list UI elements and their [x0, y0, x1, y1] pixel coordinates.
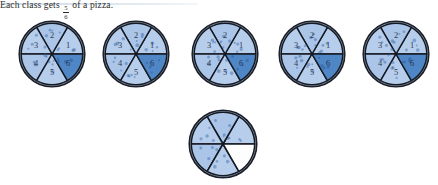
- pepperoni-topping: [223, 133, 226, 136]
- slice-number-label: 6: [410, 59, 414, 68]
- pepperoni-topping: [321, 44, 324, 47]
- pepperoni-topping: [238, 138, 240, 140]
- pepperoni-topping: [403, 31, 406, 34]
- pepperoni-topping: [158, 59, 160, 61]
- pepperoni-topping: [199, 147, 202, 150]
- pepperoni-topping: [236, 51, 239, 54]
- pepperoni-topping: [130, 74, 132, 76]
- pepperoni-topping: [135, 43, 139, 47]
- slice-number-label: 5: [134, 68, 138, 77]
- pizza-3: 123456: [190, 19, 260, 89]
- slice-number-label: 5: [394, 68, 398, 77]
- pepperoni-topping: [398, 33, 400, 35]
- pepperoni-topping: [228, 124, 231, 127]
- pepperoni-topping: [387, 54, 389, 56]
- slice-number-label: 5: [223, 68, 227, 77]
- pepperoni-topping: [59, 31, 61, 33]
- pepperoni-topping: [136, 40, 138, 42]
- slice-number-label: 1: [410, 41, 414, 50]
- pepperoni-topping: [314, 44, 316, 46]
- pepperoni-topping: [212, 139, 215, 142]
- pepperoni-topping: [27, 48, 29, 50]
- pepperoni-topping: [113, 61, 115, 63]
- slice-number-label: 2: [394, 31, 398, 40]
- pepperoni-topping: [43, 46, 46, 49]
- pepperoni-topping: [416, 48, 420, 52]
- pepperoni-topping: [205, 134, 209, 138]
- pepperoni-topping: [211, 146, 214, 149]
- pepperoni-topping: [403, 61, 406, 64]
- pepperoni-topping: [230, 71, 234, 75]
- pepperoni-topping: [378, 36, 381, 39]
- pepperoni-topping: [207, 157, 210, 160]
- pepperoni-topping: [45, 56, 47, 58]
- pepperoni-topping: [48, 61, 51, 64]
- pepperoni-topping: [156, 46, 158, 48]
- pizza-2: 123456: [101, 19, 171, 89]
- pepperoni-topping: [220, 41, 223, 44]
- slice-number-label: 6: [150, 59, 154, 68]
- pepperoni-topping: [208, 127, 210, 129]
- caption: Each class gets 5 6 of a pizza.: [0, 0, 113, 20]
- pepperoni-topping: [391, 61, 394, 64]
- pepperoni-topping: [231, 55, 234, 58]
- pepperoni-topping: [144, 48, 148, 52]
- slice-number-label: 6: [326, 59, 330, 68]
- caption-suffix: of a pizza.: [72, 0, 113, 10]
- slice-number-label: 3: [118, 41, 122, 50]
- pepperoni-topping: [120, 70, 122, 72]
- slice-number-label: 3: [294, 41, 298, 50]
- slice-number-label: 2: [134, 31, 138, 40]
- pepperoni-topping: [114, 56, 116, 58]
- pizza-4: 123456: [277, 19, 347, 89]
- pepperoni-topping: [211, 39, 215, 43]
- fraction-numerator: 5: [63, 5, 68, 12]
- slice-number-label: 1: [66, 41, 70, 50]
- pepperoni-topping: [311, 63, 313, 65]
- pepperoni-topping: [216, 55, 220, 59]
- pepperoni-topping: [416, 45, 418, 47]
- pepperoni-topping: [234, 42, 236, 44]
- pepperoni-topping: [314, 38, 317, 41]
- pepperoni-topping: [72, 48, 76, 52]
- pepperoni-topping: [199, 137, 202, 140]
- pepperoni-topping: [215, 148, 218, 151]
- pizza-1: 123456: [17, 19, 87, 89]
- pepperoni-topping: [53, 60, 55, 62]
- pepperoni-topping: [307, 63, 311, 67]
- pepperoni-topping: [322, 66, 326, 70]
- pepperoni-topping: [236, 68, 239, 71]
- pepperoni-topping: [45, 34, 48, 37]
- pepperoni-topping: [385, 44, 388, 47]
- pepperoni-topping: [128, 75, 131, 78]
- pepperoni-topping: [214, 119, 217, 122]
- pepperoni-topping: [226, 160, 230, 164]
- pepperoni-topping: [393, 41, 396, 44]
- pizza-6: [187, 108, 259, 180]
- pepperoni-topping: [405, 49, 408, 52]
- pepperoni-topping: [301, 48, 304, 51]
- slice-number-label: 6: [239, 59, 243, 68]
- fraction-five-sixths: 5 6: [63, 5, 68, 20]
- pepperoni-topping: [130, 49, 132, 51]
- slice-number-label: 3: [207, 41, 211, 50]
- pepperoni-topping: [214, 41, 216, 43]
- pepperoni-topping: [207, 55, 210, 58]
- pepperoni-topping: [213, 165, 217, 169]
- pepperoni-topping: [304, 44, 307, 47]
- pepperoni-topping: [318, 57, 320, 59]
- slice-number-label: 2: [50, 31, 54, 40]
- slice-number-label: 1: [150, 41, 154, 50]
- pepperoni-topping: [383, 60, 386, 63]
- pepperoni-topping: [217, 69, 221, 73]
- pepperoni-topping: [57, 60, 60, 63]
- pepperoni-topping: [56, 48, 59, 51]
- fraction-denominator: 6: [63, 14, 68, 21]
- diagram-canvas: 123456123456123456123456123456 Each clas…: [0, 0, 438, 185]
- pepperoni-topping: [125, 62, 128, 65]
- slice-number-label: 1: [326, 41, 330, 50]
- pepperoni-topping: [228, 39, 231, 42]
- pepperoni-topping: [150, 71, 152, 73]
- pepperoni-topping: [390, 48, 393, 51]
- slice-number-label: 2: [223, 31, 227, 40]
